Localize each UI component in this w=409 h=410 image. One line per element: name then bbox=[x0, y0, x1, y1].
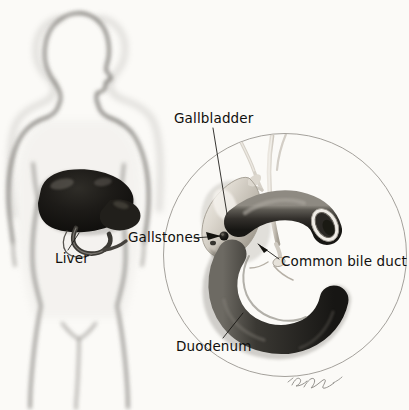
anatomy-illustration: Gallbladder Gallstones Common bile duct … bbox=[0, 0, 409, 410]
label-gallstones: Gallstones bbox=[128, 231, 200, 245]
label-gallbladder: Gallbladder bbox=[174, 112, 253, 126]
label-duodenum: Duodenum bbox=[176, 340, 252, 354]
label-liver: Liver bbox=[55, 252, 89, 266]
label-common-bile-duct: Common bile duct bbox=[281, 255, 407, 269]
